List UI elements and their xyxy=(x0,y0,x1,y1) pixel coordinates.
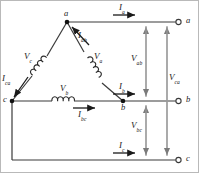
circuit-diagram: a b c a b c Vc Va Vb Iab Ica Ibc Ia Ib I… xyxy=(0,0,199,173)
current-arrow-Ica xyxy=(14,77,28,97)
phase-current-label-Ica: Ica xyxy=(2,74,10,85)
phase-voltage-label-Vc: Vc xyxy=(24,52,32,63)
terminal-label-c: c xyxy=(186,154,190,163)
phase-voltage-label-Vb: Vb xyxy=(60,84,68,95)
terminal-dot-a xyxy=(176,19,181,24)
figure-border xyxy=(1,1,199,173)
node-label-c: c xyxy=(3,95,7,104)
line-current-label-Ib: Ib xyxy=(119,82,125,93)
terminal-label-b: b xyxy=(186,95,190,104)
line-current-label-Ic: Ic xyxy=(119,141,124,152)
delta-branch-bc xyxy=(12,97,123,101)
phase-voltage-label-Va: Va xyxy=(94,52,102,63)
terminal-dot-b xyxy=(176,98,181,103)
phase-current-label-Ibc: Ibc xyxy=(78,110,86,121)
line-voltage-label-Vbc: Vbc xyxy=(131,121,142,132)
terminal-dot-c xyxy=(176,157,181,162)
phase-current-label-Iab: Iab xyxy=(78,31,87,42)
circuit-schematic-canvas xyxy=(0,0,199,173)
line-conductor-c xyxy=(12,101,176,160)
junction-node-c xyxy=(10,99,15,104)
line-current-label-Ia: Ia xyxy=(119,3,125,14)
line-voltage-label-Vab: Vab xyxy=(131,54,142,65)
terminal-label-a: a xyxy=(186,16,190,25)
node-label-a: a xyxy=(64,9,68,18)
node-label-b: b xyxy=(121,103,125,112)
line-voltage-label-Vca: Vca xyxy=(169,73,180,84)
junction-node-a xyxy=(65,20,70,25)
